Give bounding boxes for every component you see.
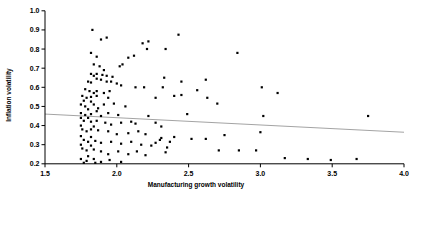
data-point xyxy=(262,115,264,117)
data-point xyxy=(107,97,109,99)
data-point xyxy=(90,81,92,83)
data-point xyxy=(136,150,138,152)
data-point xyxy=(90,145,92,147)
data-point xyxy=(143,86,145,88)
data-point xyxy=(83,120,85,122)
data-point xyxy=(109,159,111,161)
data-point xyxy=(277,92,279,94)
data-point xyxy=(88,90,90,92)
data-point xyxy=(367,115,369,117)
data-point xyxy=(356,158,358,160)
data-point xyxy=(90,121,92,123)
data-point xyxy=(103,69,105,71)
data-point xyxy=(113,103,115,105)
data-point xyxy=(93,158,95,160)
data-point xyxy=(165,151,167,153)
data-point xyxy=(134,123,136,125)
data-point xyxy=(83,100,85,102)
data-point xyxy=(144,154,146,156)
data-point xyxy=(150,145,152,147)
data-point xyxy=(87,141,89,143)
data-point xyxy=(120,143,122,145)
data-point xyxy=(165,48,167,50)
data-point xyxy=(97,129,99,131)
data-point xyxy=(93,125,95,127)
data-point xyxy=(223,134,225,136)
data-point xyxy=(94,162,96,164)
data-point xyxy=(87,81,89,83)
data-point xyxy=(87,108,89,110)
data-point xyxy=(80,125,82,127)
data-point xyxy=(107,153,109,155)
y-tick-label: 0.4 xyxy=(30,122,40,129)
data-point xyxy=(96,56,98,58)
y-tick-label: 0.3 xyxy=(30,141,40,148)
data-point xyxy=(173,136,175,138)
data-point xyxy=(107,112,109,114)
data-point xyxy=(94,140,96,142)
data-point xyxy=(90,73,92,75)
data-point xyxy=(96,78,98,80)
data-point xyxy=(97,107,99,109)
data-point xyxy=(121,63,123,65)
data-point xyxy=(144,133,146,135)
data-point xyxy=(147,115,149,117)
x-tick-label: 1.5 xyxy=(40,170,50,177)
data-point xyxy=(104,122,106,124)
data-point xyxy=(80,103,82,105)
data-point xyxy=(236,52,238,54)
data-point xyxy=(103,92,105,94)
data-point xyxy=(169,141,171,143)
data-point xyxy=(116,133,118,135)
data-point xyxy=(130,141,132,143)
data-point xyxy=(120,122,122,124)
data-point xyxy=(93,103,95,105)
data-point xyxy=(160,137,162,139)
data-point xyxy=(80,117,82,119)
y-tick-label: 0.8 xyxy=(30,46,40,53)
data-point xyxy=(81,95,83,97)
data-point xyxy=(205,138,207,140)
data-point xyxy=(117,150,119,152)
data-point xyxy=(93,75,95,77)
data-point xyxy=(180,81,182,83)
data-point xyxy=(186,113,188,115)
data-point xyxy=(261,86,263,88)
data-point xyxy=(100,150,102,152)
data-point xyxy=(160,125,162,127)
data-point xyxy=(130,121,132,123)
data-point xyxy=(100,161,102,163)
data-point xyxy=(96,90,98,92)
data-point xyxy=(330,159,332,161)
data-point xyxy=(90,113,92,115)
data-point xyxy=(216,103,218,105)
data-point xyxy=(117,114,119,116)
data-point xyxy=(86,97,88,99)
data-point xyxy=(238,149,240,151)
data-point xyxy=(107,130,109,132)
data-point xyxy=(137,130,139,132)
data-point xyxy=(96,120,98,122)
data-point xyxy=(83,139,85,141)
data-point xyxy=(84,88,86,90)
x-tick-label: 3.5 xyxy=(327,170,337,177)
data-point xyxy=(81,147,83,149)
data-point xyxy=(190,138,192,140)
data-point xyxy=(109,90,111,92)
data-point xyxy=(87,155,89,157)
data-point xyxy=(127,153,129,155)
data-point xyxy=(133,55,135,57)
data-point xyxy=(284,157,286,159)
x-axis-title: Manufacturing growth volatility xyxy=(148,181,245,189)
y-tick-label: 0.2 xyxy=(30,160,40,167)
data-point xyxy=(96,73,98,75)
data-point xyxy=(255,149,257,151)
data-point xyxy=(307,158,309,160)
data-point xyxy=(134,86,136,88)
data-point xyxy=(86,160,88,162)
data-point xyxy=(155,142,157,144)
data-point xyxy=(162,86,164,88)
data-point xyxy=(173,95,175,97)
data-point xyxy=(86,149,88,151)
data-point xyxy=(259,131,261,133)
